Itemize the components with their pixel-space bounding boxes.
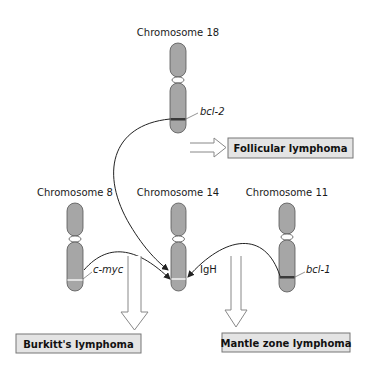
burkitt-lymphoma-label: Burkitt's lymphoma	[23, 339, 134, 350]
follicular-lymphoma-box: Follicular lymphoma	[228, 138, 353, 158]
chromosome-18: Chromosome 18 bcl-2	[137, 27, 225, 133]
chromosome-8-long-arm	[67, 242, 83, 291]
igh-label: IgH	[200, 264, 217, 275]
chromosome-11-short-arm	[279, 203, 295, 234]
bcl-1-band	[280, 276, 295, 279]
chromosome-18-centromere	[172, 77, 184, 83]
chromosome-8: Chromosome 8 c-myc	[37, 187, 124, 291]
chromosome-14-long-arm	[171, 242, 186, 291]
chromosome-11-title: Chromosome 11	[246, 187, 328, 198]
c-myc-leader	[83, 272, 92, 279]
arrow-to-mantle	[225, 256, 247, 327]
chromosome-11: Chromosome 11 bcl-1	[246, 187, 331, 292]
c-myc-band	[68, 279, 83, 281]
chromosome-18-short-arm	[170, 43, 186, 77]
mantle-zone-lymphoma-label: Mantle zone lymphoma	[220, 338, 351, 349]
arrow-to-follicular	[190, 138, 226, 157]
bcl-1-leader	[295, 272, 305, 277]
chromosome-14: Chromosome 14 IgH	[137, 187, 219, 291]
chromosome-14-centromere	[173, 236, 185, 242]
chromosome-11-centromere	[281, 234, 293, 240]
igh-band	[172, 278, 186, 280]
chromosome-8-centromere	[69, 236, 81, 242]
chromosome-14-title: Chromosome 14	[137, 187, 219, 198]
mantle-zone-lymphoma-box: Mantle zone lymphoma	[220, 333, 351, 352]
c-myc-label: c-myc	[93, 264, 124, 275]
chromosome-18-title: Chromosome 18	[137, 27, 219, 38]
follicular-lymphoma-label: Follicular lymphoma	[234, 143, 348, 154]
arrow-to-burkitt	[121, 256, 148, 330]
bcl-2-label: bcl-2	[200, 106, 225, 117]
bcl-2-leader	[186, 113, 198, 119]
chromosome-11-long-arm	[279, 240, 295, 292]
burkitt-lymphoma-box: Burkitt's lymphoma	[16, 334, 141, 353]
chromosome-8-title: Chromosome 8	[37, 187, 113, 198]
chromosome-8-short-arm	[67, 203, 83, 236]
bcl-1-label: bcl-1	[306, 264, 331, 275]
translocation-diagram: Chromosome 18 bcl-2 Chromosome 8 c-myc C…	[0, 0, 366, 368]
chromosome-18-long-arm	[170, 83, 186, 133]
bcl-2-band	[171, 118, 186, 121]
chromosome-14-short-arm	[171, 203, 186, 236]
